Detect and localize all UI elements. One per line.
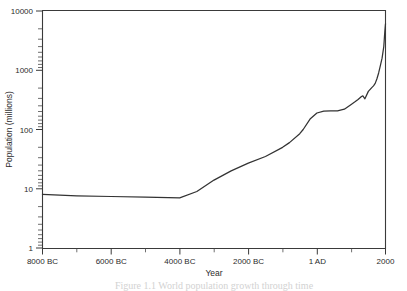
x-axis-tick-labels: 8000 BC 6000 BC 4000 BC 2000 BC 1 AD 200… xyxy=(27,257,395,266)
figure-caption: Figure 1.1 World population growth throu… xyxy=(115,280,314,291)
x-axis-title: Year xyxy=(205,268,222,278)
x-tick-label-2000: 2000 xyxy=(377,257,395,266)
y-axis-title: Population (millions) xyxy=(4,91,14,168)
chart-canvas: 10000 1000 100 10 1 8000 BC 6000 BC 4000… xyxy=(0,0,407,291)
x-axis-minor-ticks xyxy=(77,249,352,253)
y-tick-label-10000: 10000 xyxy=(11,7,34,16)
plot-frame xyxy=(42,11,386,249)
x-tick-label-1-ad: 1 AD xyxy=(309,257,327,266)
y-tick-label-100: 100 xyxy=(20,126,34,135)
y-axis-tick-labels: 10000 1000 100 10 1 xyxy=(11,7,34,253)
population-series-line xyxy=(43,24,386,198)
y-axis-minor-ticks xyxy=(38,29,42,245)
x-tick-label-4000-bc: 4000 BC xyxy=(164,257,195,266)
y-tick-label-1000: 1000 xyxy=(15,66,33,75)
y-tick-label-1: 1 xyxy=(29,244,34,253)
population-chart-figure: 10000 1000 100 10 1 8000 BC 6000 BC 4000… xyxy=(0,0,407,291)
x-tick-label-6000-bc: 6000 BC xyxy=(96,257,127,266)
x-tick-label-2000-bc: 2000 BC xyxy=(233,257,264,266)
y-tick-label-10: 10 xyxy=(24,185,33,194)
x-tick-label-8000-bc: 8000 BC xyxy=(27,257,58,266)
